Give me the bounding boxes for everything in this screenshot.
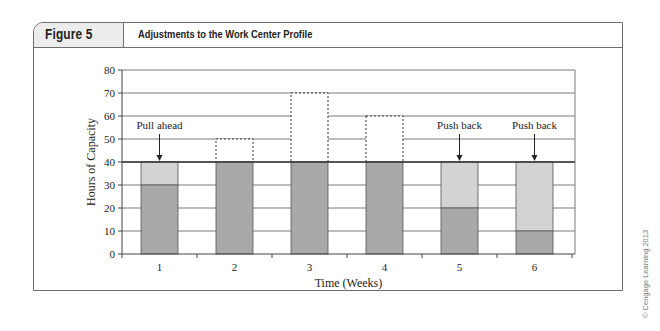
adjusted-load-bar: [516, 162, 553, 231]
arrow-down-icon: [532, 155, 538, 161]
x-tick-label: 1: [157, 261, 163, 273]
y-tick-label: 10: [104, 225, 116, 237]
adjusted-load-bar: [141, 162, 178, 185]
y-tick-label: 40: [104, 156, 116, 168]
y-tick-label: 60: [104, 110, 116, 122]
adjusted-load-bar: [441, 162, 478, 208]
arrow-down-icon: [457, 155, 463, 161]
annotation-label: Pull ahead: [136, 119, 183, 131]
x-tick-label: 6: [532, 261, 538, 273]
overload-dashed-bar: [366, 116, 403, 162]
y-axis-title: Hours of Capacity: [84, 118, 98, 206]
annotation-label: Push back: [512, 119, 557, 131]
y-tick-label: 50: [104, 133, 116, 145]
load-bar: [216, 162, 253, 254]
bar-chart: 01020304050607080123456Pull aheadPush ba…: [0, 0, 660, 331]
x-tick-label: 5: [457, 261, 463, 273]
load-bar: [291, 162, 328, 254]
y-tick-label: 80: [104, 64, 116, 76]
y-tick-label: 70: [104, 87, 116, 99]
overload-dashed-bar: [291, 93, 328, 162]
y-tick-label: 30: [104, 179, 116, 191]
load-bar: [141, 185, 178, 254]
x-tick-label: 3: [307, 261, 313, 273]
load-bar: [441, 208, 478, 254]
load-bar: [366, 162, 403, 254]
y-tick-label: 20: [104, 202, 116, 214]
copyright-credit: © Cengage Learning 2013: [641, 230, 650, 318]
arrow-down-icon: [157, 155, 163, 161]
overload-dashed-bar: [216, 139, 253, 162]
annotation-label: Push back: [437, 119, 482, 131]
load-bar: [516, 231, 553, 254]
x-axis-title: Time (Weeks): [315, 276, 383, 290]
x-tick-label: 2: [232, 261, 238, 273]
x-tick-label: 4: [382, 261, 388, 273]
y-tick-label: 0: [110, 248, 116, 260]
